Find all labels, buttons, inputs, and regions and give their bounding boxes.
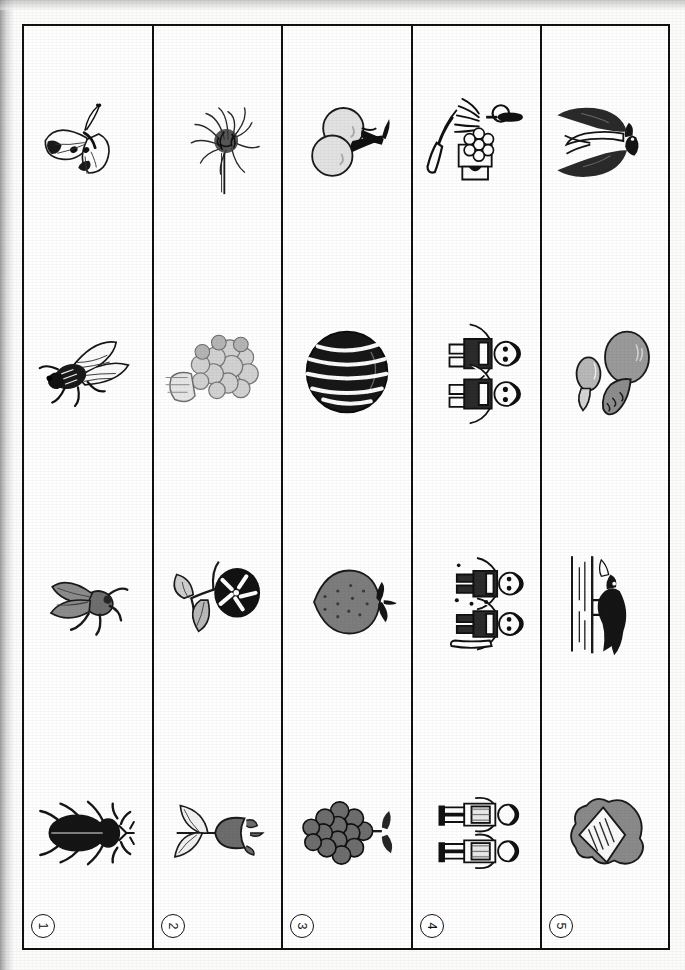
hydrangea-icon <box>162 317 272 427</box>
picture-cell[interactable] <box>542 257 668 488</box>
grapes-icon <box>292 778 402 888</box>
strawberry-icon <box>292 547 402 657</box>
folded-paper-icon <box>550 778 660 888</box>
scan-edge-shadow-top <box>0 0 685 10</box>
row-number-badge: 4 <box>420 914 444 938</box>
picture-cell[interactable] <box>24 26 152 257</box>
broom-dustpan-icon <box>422 86 532 196</box>
worksheet-row-3: 3 <box>281 24 411 950</box>
picture-cell[interactable] <box>413 487 541 718</box>
worksheet-row-4: 4 <box>411 24 541 950</box>
picture-cell[interactable] <box>413 257 541 488</box>
worksheet-row-5: 5 <box>540 24 670 950</box>
picture-cell[interactable] <box>154 487 282 718</box>
picture-cell[interactable] <box>542 26 668 257</box>
cicada-icon <box>33 317 143 427</box>
picture-cell[interactable] <box>283 26 411 257</box>
picture-cell[interactable] <box>154 26 282 257</box>
row-number-badge: 3 <box>290 914 314 938</box>
children-playing-icon <box>422 547 532 657</box>
butterfly-icon <box>33 86 143 196</box>
picture-grid: 1 2 <box>22 24 670 950</box>
row-number-badge: 1 <box>31 914 55 938</box>
mushroom-icon <box>550 317 660 427</box>
wagtail-bird-icon <box>550 547 660 657</box>
picture-cell[interactable] <box>24 257 152 488</box>
morning-glory-icon <box>162 547 272 657</box>
horsefly-icon <box>33 547 143 657</box>
watermelon-icon <box>292 317 402 427</box>
picture-cell[interactable] <box>542 487 668 718</box>
worksheet-row-1: 1 <box>22 24 152 950</box>
two-pupils-icon <box>422 778 532 888</box>
tulip-icon <box>162 778 272 888</box>
picture-cell[interactable] <box>154 257 282 488</box>
cherries-icon <box>292 86 402 196</box>
stag-beetle-icon <box>33 778 143 888</box>
scanned-worksheet-page: 1 2 <box>0 0 685 970</box>
chrysanthemum-icon <box>162 86 272 196</box>
worksheet-row-2: 2 <box>152 24 282 950</box>
scan-edge-shadow-left <box>0 0 14 970</box>
swallow-icon <box>550 86 660 196</box>
picture-cell[interactable] <box>24 487 152 718</box>
picture-cell[interactable] <box>283 257 411 488</box>
picture-cell[interactable] <box>413 26 541 257</box>
row-number-badge: 2 <box>161 914 185 938</box>
two-children-icon <box>422 317 532 427</box>
picture-cell[interactable] <box>283 487 411 718</box>
